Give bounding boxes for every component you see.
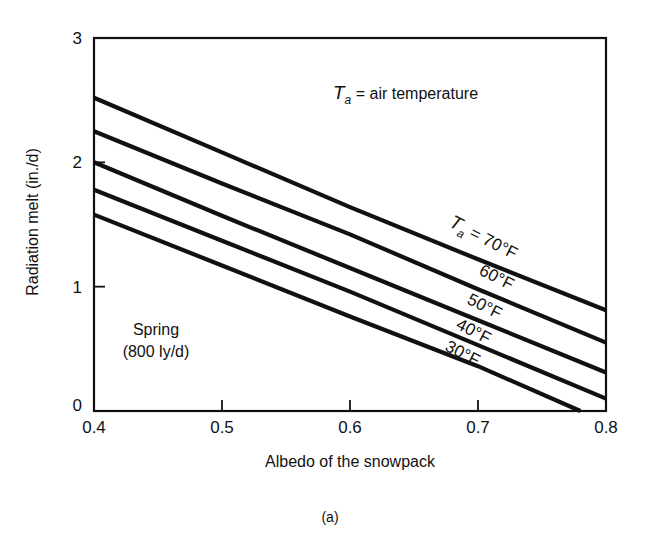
series-lines [94,98,606,411]
series-line-40f [94,190,606,399]
x-tick-label: 0.6 [338,418,362,437]
radiation-input-label: (800 ly/d) [123,343,190,360]
figure-caption: (a) [321,509,338,525]
series-line-50f [94,162,606,372]
x-tick-label: 0.5 [210,418,234,437]
series-line-60f [94,131,606,342]
y-tick-label: 1 [73,278,82,297]
x-tick-label: 0.4 [82,418,106,437]
x-tick-label: 0.7 [466,418,490,437]
y-tick-label: 3 [73,29,82,48]
legend-note-air-temperature: Ta = air temperature [333,82,478,107]
chart-canvas: 0.40.50.60.70.8 0123 Ta = 70°F60°F50°F40… [0,0,650,545]
x-tick-label: 0.8 [594,418,618,437]
radiation-melt-chart: 0.40.50.60.70.8 0123 Ta = 70°F60°F50°F40… [0,0,650,545]
y-tick-label: 2 [73,153,82,172]
y-tick-label: 0 [73,396,82,415]
x-axis-title: Albedo of the snowpack [265,453,436,470]
y-axis-title: Radiation melt (in./d) [24,148,41,296]
y-axis: 0123 [73,29,105,415]
series-line-70f [94,98,606,311]
series-label-70f: Ta = 70°F [444,211,521,267]
x-axis: 0.40.50.60.70.8 [82,400,618,437]
season-label: Spring [133,321,179,338]
